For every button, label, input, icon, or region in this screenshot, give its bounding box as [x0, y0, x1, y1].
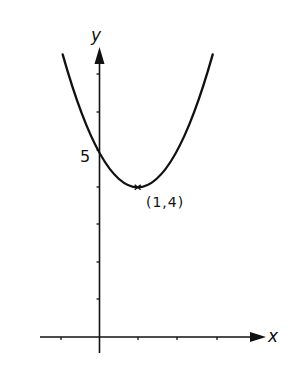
- x-axis-arrow-icon: [250, 332, 266, 342]
- y-intercept-label: 5: [80, 147, 90, 166]
- y-axis-arrow-icon: [95, 47, 105, 64]
- chart-canvas: [0, 0, 299, 371]
- x-axis-label: x: [268, 326, 278, 346]
- y-axis-label: y: [91, 25, 101, 45]
- vertex-label: (1,4): [146, 194, 184, 210]
- parabola-curve: [63, 55, 213, 188]
